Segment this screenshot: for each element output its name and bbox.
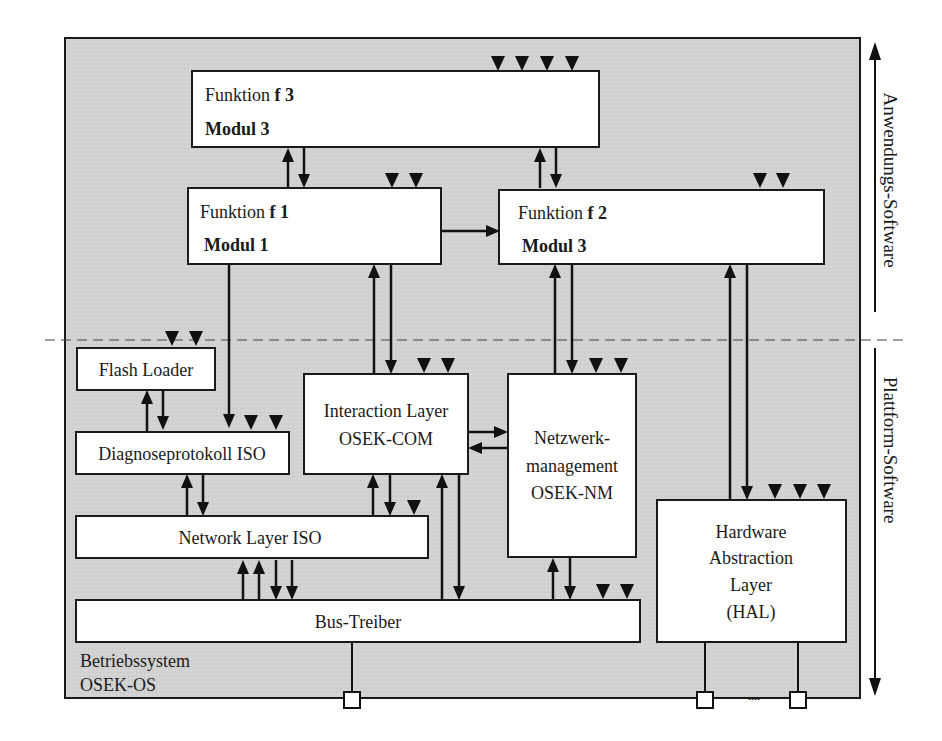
network-layer-label: Network Layer ISO [179, 528, 322, 548]
block-flash-loader[interactable]: Flash Loader [77, 348, 215, 390]
diagnoseprotokoll-label: Diagnoseprotokoll ISO [98, 444, 265, 464]
application-layer-arrow [869, 42, 881, 312]
pin-ellipsis: .... [748, 689, 760, 703]
funktion-label: Funktion [205, 85, 275, 105]
block-netzwerkmanagement[interactable]: Netzwerk- management OSEK-NM [508, 374, 636, 557]
svg-text:Funktion f 3: Funktion f 3 [205, 85, 294, 105]
block-funktion-f2[interactable]: Funktion f 2 Modul 3 [499, 190, 824, 264]
platform-layer-label: Plattform-Software [880, 377, 901, 524]
hal-line1: Hardware [716, 522, 787, 542]
block-funktion-f1[interactable]: Funktion f 1 Modul 1 [188, 188, 441, 264]
hal-pin-1 [697, 692, 713, 708]
hal-line3: Layer [730, 575, 772, 595]
modul-label: Modul 1 [204, 235, 269, 255]
bus-treiber-label: Bus-Treiber [315, 612, 401, 632]
block-hal[interactable]: Hardware Abstraction Layer (HAL) [657, 500, 846, 642]
os-label-line2: OSEK-OS [80, 675, 156, 695]
function-id: f 1 [270, 202, 290, 222]
nm-line1: Netzwerk- [534, 428, 610, 448]
platform-layer-arrow [869, 348, 881, 696]
svg-text:Funktion f 2: Funktion f 2 [518, 203, 607, 223]
application-layer-label: Anwendungs-Software [880, 92, 901, 267]
funktion-label: Funktion [200, 202, 270, 222]
interaction-layer-line1: Interaction Layer [324, 401, 448, 421]
hal-line2: Abstraction [709, 548, 793, 568]
flash-loader-label: Flash Loader [99, 360, 193, 380]
interaction-layer-line2: OSEK-COM [339, 429, 433, 449]
function-id: f 3 [275, 85, 295, 105]
block-funktion-f3[interactable]: Funktion f 3 Modul 3 [192, 71, 599, 147]
os-label-line1: Betriebssystem [80, 651, 190, 671]
block-diagnoseprotokoll[interactable]: Diagnoseprotokoll ISO [76, 432, 289, 474]
nm-line2: management [526, 456, 618, 476]
nm-line3: OSEK-NM [531, 483, 613, 503]
block-network-layer[interactable]: Network Layer ISO [76, 516, 428, 558]
hal-line4: (HAL) [727, 602, 776, 623]
svg-text:Funktion f 1: Funktion f 1 [200, 202, 289, 222]
modul-label: Modul 3 [522, 236, 587, 256]
hal-pin-2 [790, 692, 806, 708]
funktion-label: Funktion [518, 203, 588, 223]
block-bus-treiber[interactable]: Bus-Treiber [76, 600, 640, 642]
modul-label: Modul 3 [205, 119, 270, 139]
function-id: f 2 [588, 203, 608, 223]
block-interaction-layer[interactable]: Interaction Layer OSEK-COM [304, 374, 468, 474]
bus-pin [344, 692, 360, 708]
